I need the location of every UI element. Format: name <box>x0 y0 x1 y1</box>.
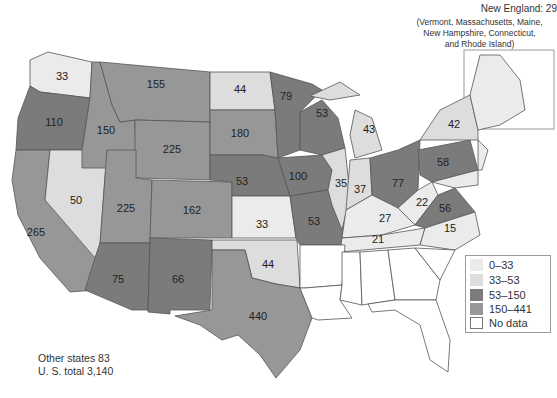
state-value-new-york: 42 <box>448 118 460 130</box>
state-value-illinois: 35 <box>335 177 347 189</box>
state-value-pennsylvania: 58 <box>437 156 449 168</box>
legend-swatch <box>470 274 483 286</box>
state-value-oregon: 110 <box>45 116 63 128</box>
state-value-arizona: 75 <box>112 273 124 285</box>
state-kansas <box>232 196 296 238</box>
state-value-north-dakota: 44 <box>234 83 246 95</box>
state-arkansas <box>300 245 345 288</box>
state-value-south-dakota: 180 <box>231 127 249 139</box>
state-value-washington: 33 <box>56 70 68 82</box>
state-value-montana: 155 <box>147 78 165 90</box>
legend-item: 53–150 <box>470 288 526 302</box>
legend-item: 150–441 <box>470 302 532 316</box>
us-total: U. S. total 3,140 <box>38 365 113 378</box>
legend-item: 33–53 <box>470 273 520 287</box>
legend-swatch <box>470 303 483 315</box>
state-value-utah: 225 <box>117 202 135 214</box>
new-england-subtitle: (Vermont, Massachusetts, Maine, New Hamp… <box>402 17 557 50</box>
us-map: 3311026550150155225225751626644180533344… <box>0 0 557 398</box>
state-value-west-virginia: 22 <box>416 196 428 208</box>
state-new-england <box>470 55 525 130</box>
state-florida <box>368 300 450 372</box>
state-value-virginia: 56 <box>439 202 451 214</box>
state-new-jersey <box>478 140 488 170</box>
state-mississippi <box>340 252 362 305</box>
state-value-north-carolina: 15 <box>444 222 456 234</box>
state-value-wyoming: 225 <box>163 143 181 155</box>
legend-label: 33–53 <box>489 274 520 286</box>
new-england-subtitle-line: and Rhode Island) <box>402 39 557 50</box>
state-value-kansas: 33 <box>256 218 268 230</box>
legend-swatch <box>470 317 483 329</box>
state-value-nebraska: 53 <box>236 175 248 187</box>
legend: 0–33 33–53 53–150 150–441 No data <box>465 255 551 333</box>
state-value-tennessee: 21 <box>372 233 384 245</box>
legend-label: 53–150 <box>489 289 526 301</box>
legend-swatch <box>470 289 483 301</box>
state-value-california: 265 <box>27 226 45 238</box>
state-montana <box>100 62 210 122</box>
state-value-indiana: 37 <box>354 183 366 195</box>
other-states-total: Other states 83 <box>38 352 113 365</box>
legend-swatch <box>470 259 483 271</box>
state-value-idaho: 150 <box>97 124 115 136</box>
totals: Other states 83 U. S. total 3,140 <box>38 352 113 378</box>
state-value-nevada: 50 <box>70 194 82 206</box>
legend-item: No data <box>470 316 528 330</box>
new-england-subtitle-line: New Hampshire, Connecticut, <box>402 28 557 39</box>
state-value-texas: 440 <box>249 310 267 322</box>
legend-item: 0–33 <box>470 258 513 272</box>
state-value-missouri: 53 <box>308 215 320 227</box>
new-england-subtitle-line: (Vermont, Massachusetts, Maine, <box>402 17 557 28</box>
state-value-minnesota: 79 <box>280 90 292 102</box>
state-value-ohio: 77 <box>392 177 404 189</box>
legend-label: 150–441 <box>489 303 532 315</box>
legend-label: 0–33 <box>489 259 513 271</box>
legend-label: No data <box>489 317 528 329</box>
state-value-michigan: 43 <box>363 123 375 135</box>
state-value-wisconsin: 53 <box>316 107 328 119</box>
state-value-kentucky: 27 <box>379 212 391 224</box>
state-value-iowa: 100 <box>289 170 307 182</box>
state-value-oklahoma: 44 <box>262 258 274 270</box>
state-value-colorado: 162 <box>183 204 201 216</box>
new-england-title: New England: 29 <box>430 3 557 14</box>
state-value-new-mexico: 66 <box>172 273 184 285</box>
